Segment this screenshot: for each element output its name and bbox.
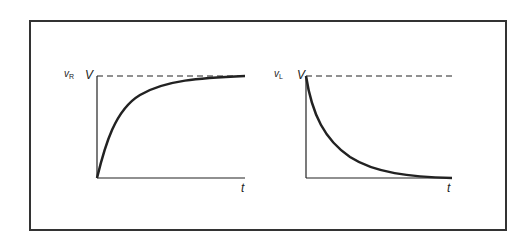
- level-label-right: V: [297, 68, 305, 82]
- decay-curve: [306, 76, 452, 178]
- level-label-left: V: [85, 68, 93, 82]
- y-label-vl: vL: [274, 68, 283, 80]
- x-label-right: t: [447, 181, 450, 195]
- rising-curve: [97, 76, 245, 178]
- x-label-left: t: [241, 181, 244, 195]
- graph-vl: [306, 76, 452, 178]
- graph-vr: [97, 76, 245, 178]
- graphs: [0, 0, 531, 247]
- y-label-vr: vR: [64, 68, 74, 80]
